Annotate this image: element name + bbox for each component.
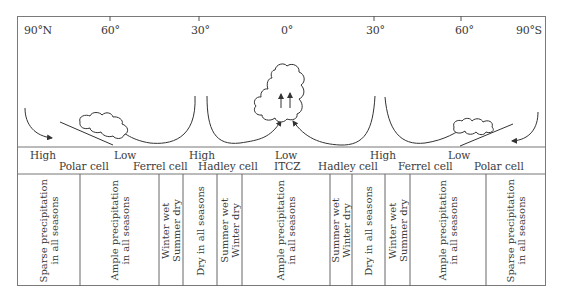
zone-line-1: Dry in all seasons <box>363 186 374 276</box>
zone-line-2: in all seasons <box>120 196 131 264</box>
south-ferrel-arrow <box>385 97 469 143</box>
precipitation-zone: Dry in all seasons <box>183 175 217 286</box>
precipitation-zone: Ample precipitationin all seasons <box>242 175 330 286</box>
precipitation-zone: Dry in all seasons <box>352 175 385 286</box>
precipitation-zone: Winter wetSummer dry <box>385 175 410 286</box>
latitude-label: 60° <box>455 24 474 37</box>
precipitation-zone: Summer wetWinter dry <box>217 175 242 286</box>
zone-line-2: Summer dry <box>171 199 182 262</box>
zone-line-2: Summer dry <box>398 199 409 262</box>
zone-line-1: Winter wet <box>160 202 171 258</box>
itcz-cloud <box>254 64 304 122</box>
latitude-label: 90°N <box>24 24 52 37</box>
latitude-label: 60° <box>101 24 120 37</box>
zone-line-1: Ample precipitation <box>275 180 286 281</box>
south-cloud <box>454 118 494 134</box>
pressure-high-label: High <box>30 149 56 161</box>
latitude-label: 30° <box>366 24 385 37</box>
zone-line-1: Sparse precipitation <box>38 179 49 282</box>
precipitation-zone: Sparse precipitationin all seasons <box>486 175 546 286</box>
cell-label-polar: Polar cell <box>474 160 524 172</box>
zone-line-2: Winter dry <box>341 203 352 257</box>
zone-line-1: Ample precipitation <box>109 180 120 281</box>
zone-line-1: Winter wet <box>387 202 398 258</box>
zone-line-2: in all seasons <box>49 196 60 264</box>
north-ferrel-arrow <box>118 96 195 143</box>
zone-line-1: Summer wet <box>219 198 230 263</box>
latitude-label: 0° <box>281 24 293 37</box>
south-hadley-arrow <box>293 96 375 145</box>
precipitation-zone: Sparse precipitationin all seasons <box>17 175 80 286</box>
itcz-label: ITCZ <box>274 160 300 172</box>
north-cloud <box>80 113 128 139</box>
zone-line-2: in all seasons <box>286 196 297 264</box>
latitude-label: 30° <box>191 24 210 37</box>
north-polar-arrow <box>25 108 52 138</box>
cell-label-hadley: Hadley cell <box>318 160 378 172</box>
zone-line-1: Sparse precipitation <box>505 179 516 282</box>
zone-line-1: Summer wet <box>330 198 341 263</box>
precipitation-zone: Summer wetWinter dry <box>330 175 352 286</box>
precipitation-zone: Ample precipitationin all seasons <box>410 175 486 286</box>
zone-line-2: in all seasons <box>448 196 459 264</box>
zone-line-1: Dry in all seasons <box>195 186 206 276</box>
precipitation-zone: Ample precipitationin all seasons <box>80 175 159 286</box>
cell-label-polar: Polar cell <box>59 160 109 172</box>
cell-label-ferrel: Ferrel cell <box>133 160 188 172</box>
latitude-label: 90°S <box>516 24 542 37</box>
cell-label-ferrel: Ferrel cell <box>398 160 453 172</box>
south-polar-arrow <box>512 112 538 141</box>
zone-line-1: Ample precipitation <box>437 180 448 281</box>
zone-line-2: Winter dry <box>230 203 241 257</box>
zone-line-2: in all seasons <box>516 196 527 264</box>
cell-label-hadley: Hadley cell <box>198 160 258 172</box>
precipitation-zone: Winter wetSummer dry <box>159 175 183 286</box>
